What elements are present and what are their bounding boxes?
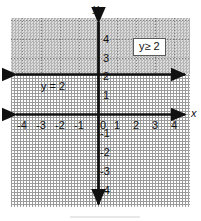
ytick-label: -3 [100,166,110,177]
xtick-label: 3 [152,120,158,131]
xtick-label: -3 [36,120,46,131]
ytick-label: 1 [103,90,109,101]
ytick-label: -1 [100,128,110,139]
boundary-line-label: y = 2 [41,81,65,92]
xtick-label: 4 [171,120,177,131]
x-axis-label: x [191,108,197,119]
inequality-graph-figure: y x -4 -3 -2 -1 0 1 2 3 4 4 3 2 1 -1 -2 … [0,0,201,221]
y-axis-label: y [93,3,99,14]
xtick-label: -1 [74,120,84,131]
ytick-label: -2 [100,147,110,158]
ytick-label: 4 [103,34,109,45]
xtick-label: -2 [55,120,65,131]
ytick-label: -4 [100,185,110,196]
ytick-label: 2 [103,71,109,82]
ytick-label: 3 [103,53,109,64]
xtick-label: 2 [133,120,139,131]
scan-artifact [70,216,140,218]
xtick-label: 1 [114,120,120,131]
region-inequality-label: y≥ 2 [133,38,166,56]
xtick-label: -4 [17,120,27,131]
